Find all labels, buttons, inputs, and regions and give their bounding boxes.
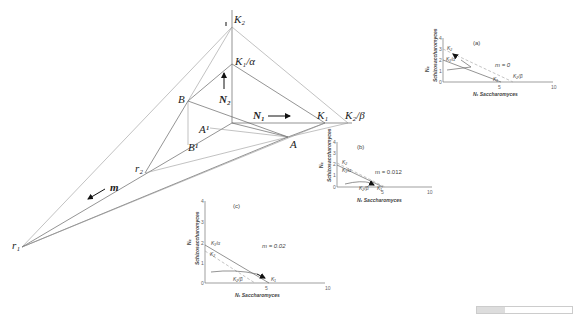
svg-text:Schizosaccharomyces: Schizosaccharomyces bbox=[326, 128, 332, 182]
svg-text:1: 1 bbox=[201, 260, 204, 266]
inset-b: 4 3 2 1 0 5 10 (b) m = 0.012 K₂ K₁/α K₂/… bbox=[318, 128, 433, 203]
svg-text:(b): (b) bbox=[357, 144, 364, 150]
svg-text:K₁: K₁ bbox=[271, 276, 276, 282]
svg-text:Schizosaccharomyces: Schizosaccharomyces bbox=[194, 211, 200, 265]
m-value-a: m = 0 bbox=[495, 62, 511, 68]
svg-text:N₁ Saccharomyces: N₁ Saccharomyces bbox=[235, 292, 280, 298]
svg-text:(c): (c) bbox=[233, 203, 240, 209]
svg-text:4: 4 bbox=[439, 35, 442, 41]
svg-text:2: 2 bbox=[201, 240, 204, 246]
svg-text:K₂: K₂ bbox=[342, 159, 347, 165]
svg-text:K₁/α: K₁/α bbox=[211, 240, 220, 246]
main-diagram bbox=[22, 10, 352, 247]
inset-c: 4 3 2 1 0 5 10 (c) m = 0.02 K₁/α K₂ K₂/β… bbox=[186, 198, 331, 298]
svg-text:10: 10 bbox=[427, 189, 433, 195]
label-K1-alpha: K₁/α bbox=[234, 55, 255, 67]
svg-text:(a): (a) bbox=[473, 40, 480, 46]
svg-text:0: 0 bbox=[201, 280, 204, 286]
svg-text:K₂/β: K₂/β bbox=[513, 73, 523, 79]
svg-text:3: 3 bbox=[201, 219, 204, 225]
svg-text:2: 2 bbox=[333, 161, 336, 167]
svg-text:K₁: K₁ bbox=[377, 185, 382, 191]
svg-text:10: 10 bbox=[325, 285, 331, 291]
svg-text:10: 10 bbox=[551, 84, 557, 90]
label-N1: N₁ bbox=[252, 109, 265, 121]
trajectory-arrow-icon bbox=[370, 183, 374, 185]
svg-text:4: 4 bbox=[333, 139, 336, 145]
label-K1: K₁ bbox=[316, 109, 328, 121]
svg-text:N₂: N₂ bbox=[186, 239, 192, 245]
scroll-bar-fill bbox=[477, 307, 505, 313]
svg-text:1: 1 bbox=[439, 68, 442, 74]
svg-text:0: 0 bbox=[439, 79, 442, 85]
svg-text:3: 3 bbox=[439, 46, 442, 52]
svg-text:K₂: K₂ bbox=[210, 251, 215, 257]
svg-text:2: 2 bbox=[439, 57, 442, 63]
svg-text:K₁/α: K₁/α bbox=[446, 56, 455, 62]
m-value-b: m = 0.012 bbox=[375, 169, 403, 175]
svg-text:K₂: K₂ bbox=[447, 45, 452, 51]
label-r2: r₂ bbox=[135, 162, 143, 174]
svg-text:N₁ Saccharomyces: N₁ Saccharomyces bbox=[473, 91, 518, 97]
label-A: A bbox=[289, 138, 297, 150]
m-value-c: m = 0.02 bbox=[262, 243, 286, 249]
label-r1: r₁ bbox=[12, 239, 20, 251]
svg-text:N₂: N₂ bbox=[424, 66, 430, 72]
svg-text:N₂: N₂ bbox=[318, 162, 324, 168]
svg-text:K₁/α: K₁/α bbox=[342, 167, 351, 173]
m-axis-arrow-icon bbox=[88, 189, 105, 199]
scroll-bar bbox=[476, 306, 573, 314]
svg-text:K₁: K₁ bbox=[493, 76, 498, 82]
svg-text:5: 5 bbox=[498, 84, 501, 90]
label-m: m bbox=[110, 181, 119, 193]
svg-text:K₂/β: K₂/β bbox=[233, 276, 243, 282]
label-K2-beta: K₂/β bbox=[344, 109, 365, 121]
svg-text:5: 5 bbox=[265, 285, 268, 291]
trajectory-arrow-icon bbox=[257, 274, 265, 278]
svg-text:N₁ Saccharomyces: N₁ Saccharomyces bbox=[357, 197, 402, 203]
label-B1: B¹ bbox=[188, 141, 198, 153]
svg-text:0: 0 bbox=[333, 184, 336, 190]
label-B: B bbox=[178, 93, 185, 105]
inset-a: 4 3 2 1 0 5 10 (a) m = 0 K₂ K₁/α K₁ K₂/β… bbox=[424, 28, 557, 97]
label-A1: A¹ bbox=[198, 123, 209, 135]
svg-text:1: 1 bbox=[333, 172, 336, 178]
label-K2: K₂ bbox=[233, 13, 245, 25]
diagram-canvas: K₂ K₁/α B N₂ N₁ K₁ K₂/β A¹ A B¹ r₂ m r₁ … bbox=[0, 0, 579, 316]
svg-text:Schizosaccharomyces: Schizosaccharomyces bbox=[432, 28, 438, 82]
svg-text:4: 4 bbox=[201, 198, 204, 204]
svg-text:3: 3 bbox=[333, 150, 336, 156]
label-N2: N₂ bbox=[218, 93, 231, 105]
svg-text:K₂/β: K₂/β bbox=[359, 185, 369, 191]
